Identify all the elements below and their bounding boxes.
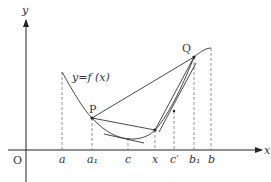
tick-label-x: x (152, 153, 159, 166)
tick-label-c: c (125, 153, 131, 166)
x-tick-labels: a a₁ c x c′ b₁ b (59, 153, 215, 166)
y-axis-label: y (21, 4, 29, 17)
point-q (192, 55, 195, 58)
tick-label-c-prime: c′ (170, 153, 179, 166)
point-p-label: P (89, 103, 97, 116)
secant-pq (92, 57, 194, 118)
point-q-label: Q (182, 42, 191, 55)
point-x (153, 128, 156, 131)
origin-label: O (13, 154, 22, 167)
tick-label-a1: a₁ (87, 153, 98, 166)
curve-label: y=f (x) (71, 71, 110, 84)
tick-label-a: a (59, 153, 66, 166)
x-axis-label: x (264, 144, 271, 157)
dashed-guides (62, 48, 211, 150)
secant-p-x (92, 118, 155, 130)
tangent-c-prime (159, 63, 196, 132)
tick-label-b: b (208, 153, 215, 166)
point-c-prime (173, 110, 175, 112)
diagram-canvas: y x O y=f (x) P Q a a₁ c x c′ b₁ b (0, 0, 271, 182)
function-curve (62, 48, 211, 139)
point-p (90, 116, 93, 119)
secant-x-q (155, 57, 194, 130)
tick-label-b1: b₁ (189, 153, 200, 166)
